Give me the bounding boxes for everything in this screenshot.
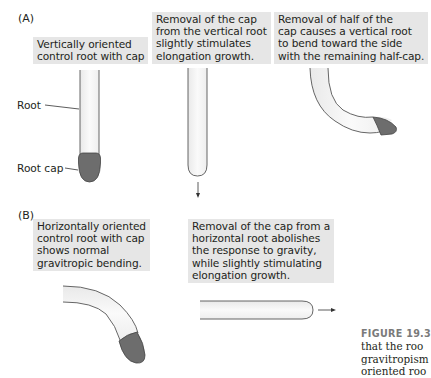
horizontal-control-root <box>63 286 145 363</box>
figure-caption: FIGURE 19.3 that the roo gravitropism or… <box>361 327 431 378</box>
vertical-decapped-root <box>188 68 207 198</box>
growth-arrow-right-icon <box>331 308 336 312</box>
growth-arrow-down-icon <box>196 193 200 198</box>
half-cap-root <box>310 68 397 135</box>
vertical-control-root <box>79 70 101 182</box>
horizontal-decapped-root <box>200 301 336 319</box>
root-leader-line <box>45 105 79 109</box>
figure-number: FIGURE 19.3 <box>361 328 431 339</box>
root-cap-leader-line <box>65 168 78 170</box>
figure-caption-text: that the roo gravitropism oriented roo <box>361 340 429 377</box>
root-cap-shape <box>79 153 101 182</box>
